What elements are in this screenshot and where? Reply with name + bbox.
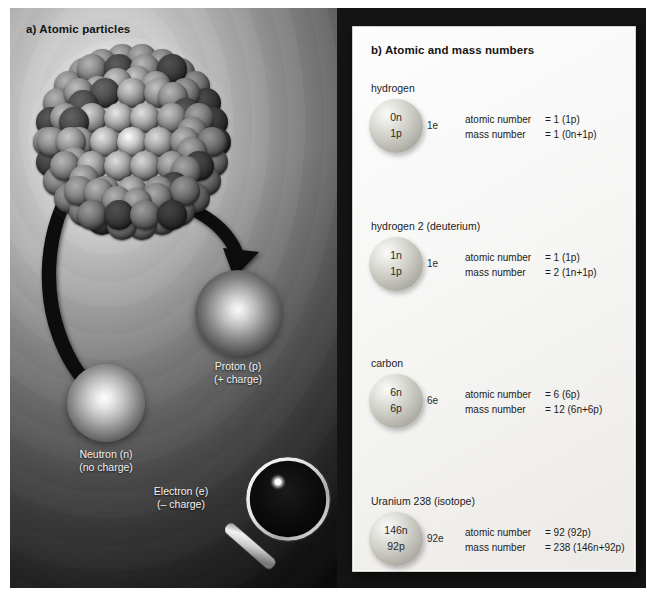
atomic-number-label: atomic number <box>465 387 545 402</box>
electron-core <box>275 479 280 484</box>
isotope-neutron-count: 1n <box>369 249 423 261</box>
neutron-caption-line2: (no charge) <box>28 461 184 474</box>
proton-caption-line1: Proton (p) <box>160 360 316 373</box>
nucleon <box>157 200 187 230</box>
isotope-neutron-count: 6n <box>369 386 423 398</box>
panel-b-title: b) Atomic and mass numbers <box>371 44 534 56</box>
proton-caption-line2: (+ charge) <box>160 373 316 386</box>
atom-structure-figure: a) Atomic particles Proton (p) (+ charge… <box>0 0 658 604</box>
isotope-row: Uranium 238 (isotope) 146n 92p 92e atomi… <box>369 495 621 566</box>
isotope-stats: atomic number= 6 (6p) mass number= 12 (6… <box>465 387 602 417</box>
electron-caption-line2: (– charge) <box>120 498 242 511</box>
panel-a-title: a) Atomic particles <box>26 23 130 35</box>
proton-sphere <box>195 270 281 356</box>
nucleon <box>104 200 134 230</box>
atomic-number-value: = 6 (6p) <box>545 389 580 400</box>
isotope-proton-count: 1p <box>369 127 423 139</box>
isotope-mass-number-line: mass number= 1 (0n+1p) <box>465 127 597 142</box>
mass-number-label: mass number <box>465 127 545 142</box>
isotope-nucleus-sphere: 6n 6p <box>369 374 423 428</box>
isotope-stats: atomic number= 1 (1p) mass number= 2 (1n… <box>465 250 597 280</box>
atomic-number-value: = 1 (1p) <box>545 114 580 125</box>
mass-number-label: mass number <box>465 265 545 280</box>
isotope-element-name: hydrogen 2 (deuterium) <box>371 220 621 232</box>
mass-number-value: = 12 (6n+6p) <box>545 404 602 415</box>
isotope-electron-count: 92e <box>427 533 444 544</box>
atomic-number-label: atomic number <box>465 112 545 127</box>
neutron-sphere <box>67 364 145 442</box>
isotope-neutron-count: 0n <box>369 111 423 123</box>
isotope-nucleus-sphere: 1n 1p <box>369 237 423 291</box>
neutron-caption-line1: Neutron (n) <box>28 448 184 461</box>
atomic-number-value: = 92 (92p) <box>545 527 591 538</box>
isotope-nucleus-sphere: 146n 92p <box>369 512 423 566</box>
isotope-stats: atomic number= 92 (92p) mass number= 238… <box>465 525 625 555</box>
isotope-mass-number-line: mass number= 12 (6n+6p) <box>465 402 602 417</box>
panel-b-atomic-and-mass-numbers: b) Atomic and mass numbers hydrogen 0n 1… <box>352 26 636 572</box>
mass-number-value: = 238 (146n+92p) <box>545 542 625 553</box>
mass-number-value: = 2 (1n+1p) <box>545 267 597 278</box>
isotope-electron-count: 6e <box>427 395 438 406</box>
isotope-neutron-count: 146n <box>369 524 423 536</box>
isotope-proton-count: 1p <box>369 265 423 277</box>
atomic-number-value: = 1 (1p) <box>545 252 580 263</box>
atomic-number-label: atomic number <box>465 525 545 540</box>
mass-number-label: mass number <box>465 402 545 417</box>
isotope-mass-number-line: mass number= 238 (146n+92p) <box>465 540 625 555</box>
neutron-caption: Neutron (n) (no charge) <box>28 448 184 474</box>
proton-caption: Proton (p) (+ charge) <box>160 360 316 386</box>
mass-number-value: = 1 (0n+1p) <box>545 129 597 140</box>
isotope-electron-count: 1e <box>427 258 438 269</box>
isotope-nucleus-sphere: 0n 1p <box>369 99 423 153</box>
isotope-electron-count: 1e <box>427 120 438 131</box>
isotope-element-name: Uranium 238 (isotope) <box>371 495 621 507</box>
isotope-row: hydrogen 0n 1p 1e atomic number= 1 (1p) … <box>369 82 621 153</box>
isotope-atomic-number-line: atomic number= 6 (6p) <box>465 387 602 402</box>
nucleus-cluster <box>34 44 230 240</box>
isotope-atomic-number-line: atomic number= 1 (1p) <box>465 250 597 265</box>
isotope-proton-count: 6p <box>369 402 423 414</box>
panel-a-atomic-particles: a) Atomic particles Proton (p) (+ charge… <box>10 8 337 588</box>
isotope-row: carbon 6n 6p 6e atomic number= 6 (6p) ma… <box>369 357 621 428</box>
isotope-mass-number-line: mass number= 2 (1n+1p) <box>465 265 597 280</box>
isotope-stats: atomic number= 1 (1p) mass number= 1 (0n… <box>465 112 597 142</box>
electron-caption: Electron (e) (– charge) <box>120 485 242 511</box>
isotope-element-name: carbon <box>371 357 621 369</box>
nucleon <box>77 200 107 230</box>
isotope-proton-count: 92p <box>369 540 423 552</box>
isotope-element-name: hydrogen <box>371 82 621 94</box>
isotope-atomic-number-line: atomic number= 1 (1p) <box>465 112 597 127</box>
atomic-number-label: atomic number <box>465 250 545 265</box>
magnifying-glass-icon <box>225 452 333 582</box>
figure-frame: a) Atomic particles Proton (p) (+ charge… <box>10 8 646 588</box>
electron-caption-line1: Electron (e) <box>120 485 242 498</box>
isotope-row: hydrogen 2 (deuterium) 1n 1p 1e atomic n… <box>369 220 621 291</box>
mass-number-label: mass number <box>465 540 545 555</box>
isotope-atomic-number-line: atomic number= 92 (92p) <box>465 525 625 540</box>
